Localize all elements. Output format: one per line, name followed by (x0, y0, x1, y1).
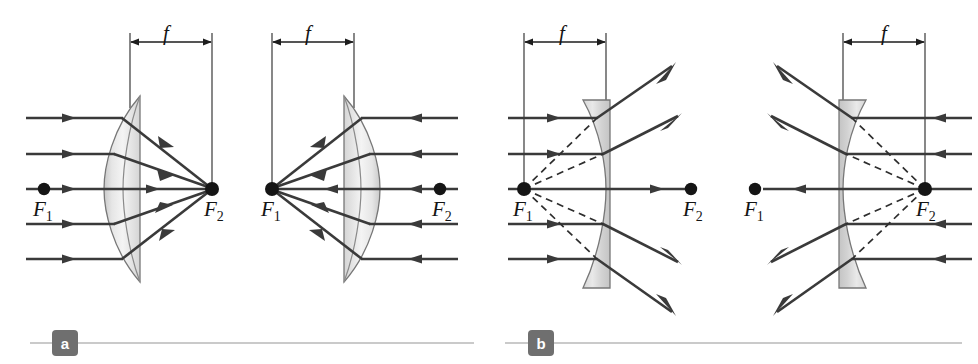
refracted-ray-4 (603, 224, 678, 262)
focal-point-f2-dot (205, 182, 219, 196)
virtual-ray-2 (524, 154, 603, 189)
focal-point-f2-dot (685, 183, 697, 195)
ray-arrowhead (547, 254, 561, 263)
focal-point-f1-dot (517, 182, 531, 196)
focal-point-f2-label: F2 (915, 197, 936, 224)
focal-point-f2-label: F2 (203, 197, 224, 224)
ray-arrowhead (62, 184, 76, 193)
refracted-ray-2 (771, 116, 846, 154)
diverging-lens-diagram-right: f (743, 21, 972, 316)
virtual-ray-4 (524, 189, 603, 224)
focal-point-f2-label: F2 (682, 197, 703, 224)
ray-arrowhead (547, 219, 561, 228)
ray-arrowhead (932, 149, 946, 158)
converging-lens-diagram-left: f (26, 21, 224, 282)
focal-point-f1-dot (265, 182, 279, 196)
ray-arrowhead (932, 113, 946, 122)
ray-arrowhead (310, 136, 326, 148)
virtual-ray-4 (846, 189, 925, 224)
panel-a: f (26, 21, 474, 356)
ray-arrowhead (932, 254, 946, 263)
panel-a-badge-letter: a (61, 335, 70, 352)
focal-point-f1-label: F1 (743, 197, 764, 224)
ray-arrowhead (656, 62, 676, 84)
ray-arrowhead (159, 229, 175, 241)
refracted-ray-1 (597, 66, 672, 118)
diverging-lens-diagram-left: f (508, 21, 703, 316)
panel-b: f (505, 21, 972, 356)
ray-arrowhead (158, 136, 174, 148)
ray-arrowhead (773, 294, 793, 316)
ray-arrowhead (547, 113, 561, 122)
ray-arrowhead (62, 254, 76, 263)
ray-arrowhead (62, 149, 76, 158)
ray-arrowhead (324, 184, 338, 193)
ray-arrowhead (62, 113, 76, 122)
ray-arrowhead (408, 219, 422, 228)
ray-arrowhead (650, 184, 664, 193)
panel-b-badge-letter: b (536, 335, 545, 352)
focal-point-f2-dot (434, 183, 446, 195)
ray-arrowhead (656, 294, 676, 316)
ray-arrowhead (408, 254, 422, 263)
ray-arrowhead (408, 184, 422, 193)
virtual-ray-2 (846, 154, 925, 189)
focal-point-f1-dot (749, 183, 761, 195)
ray-arrowhead (408, 149, 422, 158)
ray-arrowhead (309, 169, 327, 181)
focal-point-f1-label: F1 (32, 197, 53, 224)
ray-arrowhead (157, 169, 175, 181)
refracted-ray-1 (777, 66, 852, 118)
ray-arrowhead (773, 62, 793, 84)
optics-ray-diagram: f (0, 0, 978, 364)
focal-point-f1-label: F1 (512, 197, 533, 224)
focal-point-f2-label: F2 (431, 197, 452, 224)
refracted-ray-4 (771, 224, 846, 262)
ray-arrowhead (309, 229, 325, 241)
ray-arrowhead (146, 184, 160, 193)
focal-point-f2-dot (918, 182, 932, 196)
ray-arrowhead (62, 219, 76, 228)
ray-arrowhead (792, 184, 806, 193)
figure-root: f (0, 0, 978, 364)
refracted-ray-2 (603, 116, 678, 154)
ray-arrowhead (408, 113, 422, 122)
focal-point-f1-dot (38, 183, 50, 195)
converging-lens-diagram-right: f F1 (260, 21, 458, 282)
focal-point-f1-label: F1 (260, 197, 281, 224)
